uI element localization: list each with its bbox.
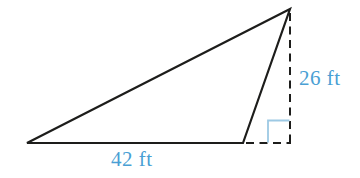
triangle-outline xyxy=(27,9,290,143)
base-label: 42 ft xyxy=(111,149,153,170)
height-label: 26 ft xyxy=(299,68,341,89)
triangle-diagram: 26 ft 42 ft xyxy=(0,0,360,178)
right-angle-marker-icon xyxy=(268,121,290,143)
